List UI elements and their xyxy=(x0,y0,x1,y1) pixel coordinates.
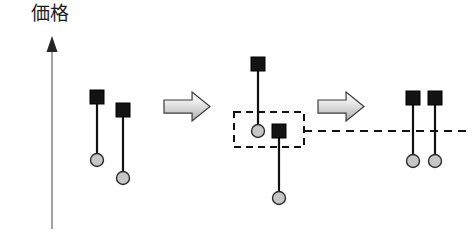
marker-6 xyxy=(428,91,442,168)
ask-square-icon xyxy=(116,103,130,117)
marker-5 xyxy=(406,91,420,168)
ask-square-icon xyxy=(406,91,420,105)
up-arrow-icon xyxy=(47,36,58,52)
block-arrow-1 xyxy=(164,92,210,121)
ask-square-icon xyxy=(272,124,286,138)
bid-circle-icon xyxy=(117,172,130,185)
bid-circle-icon xyxy=(429,155,442,168)
marker-1 xyxy=(90,90,104,167)
block-arrow-2 xyxy=(318,92,364,121)
marker-2 xyxy=(116,103,130,185)
ask-square-icon xyxy=(90,90,104,104)
ask-square-icon xyxy=(251,57,265,71)
right-arrow-icon xyxy=(164,92,210,121)
marker-4 xyxy=(272,124,286,205)
right-arrow-icon xyxy=(318,92,364,121)
group-before xyxy=(90,90,130,185)
group-after xyxy=(406,91,442,168)
bid-circle-icon xyxy=(91,154,104,167)
bid-circle-icon xyxy=(273,192,286,205)
group-during xyxy=(234,57,304,205)
match-highlight-box xyxy=(234,112,304,147)
price-matching-diagram: 価格 xyxy=(0,0,474,233)
diagram-canvas xyxy=(0,0,474,233)
marker-3 xyxy=(251,57,265,138)
bid-circle-icon xyxy=(407,155,420,168)
ask-square-icon xyxy=(428,91,442,105)
y-axis xyxy=(47,36,58,229)
bid-circle-icon xyxy=(252,125,265,138)
